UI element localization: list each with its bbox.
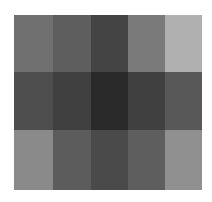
grid-cell-r3-c5 xyxy=(165,130,202,190)
grid-cell-r1-c5 xyxy=(165,15,202,72)
grid-cell-r3-c4 xyxy=(128,130,165,190)
grid-cell-r2-c4 xyxy=(128,72,165,130)
grid-cell-r2-c3 xyxy=(91,72,128,130)
grid-cell-r1-c3 xyxy=(91,15,128,72)
grid-cell-r1-c4 xyxy=(128,15,165,72)
grid-cell-r2-c1 xyxy=(14,72,53,130)
grid-cell-r1-c2 xyxy=(53,15,91,72)
grid-cell-r3-c1 xyxy=(14,130,53,190)
grid-cell-r2-c5 xyxy=(165,72,202,130)
grid-cell-r3-c3 xyxy=(91,130,128,190)
grayscale-grid xyxy=(14,15,202,190)
grid-cell-r1-c1 xyxy=(14,15,53,72)
grid-cell-r2-c2 xyxy=(53,72,91,130)
grid-cell-r3-c2 xyxy=(53,130,91,190)
